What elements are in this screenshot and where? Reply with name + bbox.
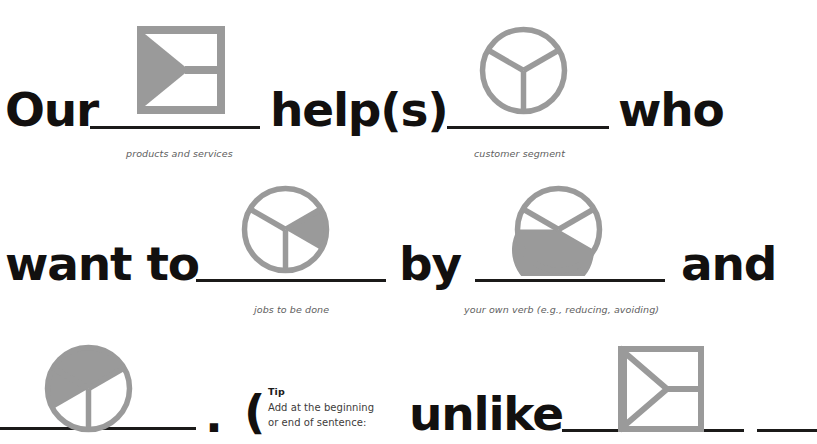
tip-callout: Tip Add at the beginning or end of sente… <box>268 386 376 431</box>
circle-thirds-one-filled-icon <box>239 183 332 276</box>
blank-line-customer-segment[interactable] <box>447 126 609 129</box>
sentence-period: . <box>205 392 223 439</box>
circle-thirds-two-filled-icon <box>512 183 605 276</box>
hint-products-and-services: products and services <box>126 148 233 159</box>
square-arrow-filled-icon <box>137 26 225 114</box>
tip-line-1: Add at the beginning <box>268 400 376 416</box>
blank-line-products-services[interactable] <box>90 126 260 129</box>
sentence-word-want-to: want to <box>5 240 199 287</box>
sentence-word-by: by <box>399 240 461 287</box>
blank-line-own-verb[interactable] <box>475 279 665 282</box>
sentence-word-our: Our <box>5 86 98 133</box>
circle-thirds-top-filled-icon <box>42 342 135 435</box>
hint-your-own-verb: your own verb (e.g., reducing, avoiding) <box>464 304 659 315</box>
sentence-word-helps: help(s) <box>270 86 448 133</box>
sentence-word-unlike: unlike <box>409 390 563 437</box>
tip-line-2: or end of sentence: <box>268 415 376 431</box>
hint-jobs-to-be-done: jobs to be done <box>254 304 329 315</box>
blank-line-jobs-to-be-done[interactable] <box>196 279 386 282</box>
blank-line-edge-cut[interactable] <box>757 429 817 432</box>
sentence-open-paren: ( <box>244 388 265 435</box>
square-arrow-outline-icon <box>617 345 705 433</box>
sentence-word-who: who <box>618 86 724 133</box>
tip-title: Tip <box>268 386 376 398</box>
sentence-word-and: and <box>681 240 776 287</box>
circle-thirds-empty-icon <box>477 24 570 117</box>
hint-customer-segment: customer segment <box>474 148 565 159</box>
